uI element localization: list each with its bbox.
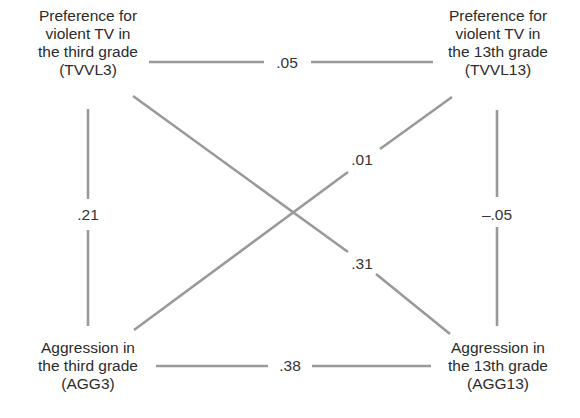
node-tvvl3: Preference for violent TV in the third g… [10,7,166,79]
node-tvvl13-line-1: Preference for [428,7,568,25]
edge-agg3-tvvl13-lower [134,172,348,330]
node-agg3-line-2: the third grade [18,357,158,375]
node-agg13: Aggression in the 13th grade (AGG13) [428,339,568,393]
node-tvvl13-line-3: the 13th grade [428,43,568,61]
node-tvvl13-line-2: violent TV in [428,25,568,43]
node-agg13-line-2: the 13th grade [428,357,568,375]
coef-tvvl3-agg13: .31 [340,255,384,273]
node-tvvl3-line-2: violent TV in [10,25,166,43]
node-tvvl3-line-3: the third grade [10,43,166,61]
coef-agg3-agg13: .38 [270,357,310,375]
node-tvvl3-line-4: (TVVL3) [10,61,166,79]
node-agg13-line-1: Aggression in [428,339,568,357]
edge-tvvl3-agg13-lower [376,274,450,334]
node-tvvl13-line-4: (TVVL13) [428,61,568,79]
coef-agg3-tvvl13: .01 [340,151,384,169]
node-tvvl3-line-1: Preference for [10,7,166,25]
edge-agg3-tvvl13-upper [380,97,452,149]
coef-tvvl13-agg13: –.05 [475,206,519,224]
node-tvvl13: Preference for violent TV in the 13th gr… [428,7,568,79]
coef-tvvl3-tvvl13: .05 [267,54,307,72]
edge-tvvl3-agg13-upper [133,96,348,252]
node-agg3-line-3: (AGG3) [18,375,158,393]
coef-tvvl3-agg3: .21 [68,206,108,224]
node-agg3-line-1: Aggression in [18,339,158,357]
node-agg13-line-3: (AGG13) [428,375,568,393]
node-agg3: Aggression in the third grade (AGG3) [18,339,158,393]
